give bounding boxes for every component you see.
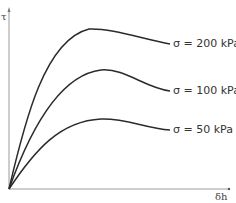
curve-sigma-200 xyxy=(9,29,170,189)
series-label-50: σ = 50 kPa xyxy=(173,124,233,135)
curve-sigma-100 xyxy=(9,70,170,189)
x-axis-end-marker-icon xyxy=(228,188,230,190)
y-axis-label: τ xyxy=(1,12,7,22)
chart-canvas xyxy=(0,0,236,203)
x-axis-label: δh xyxy=(215,192,227,202)
curve-sigma-50 xyxy=(9,119,170,189)
series-label-100: σ = 100 kPa xyxy=(173,85,236,96)
y-axis-arrow-icon xyxy=(8,7,11,12)
series-label-200: σ = 200 kPa xyxy=(173,38,236,49)
